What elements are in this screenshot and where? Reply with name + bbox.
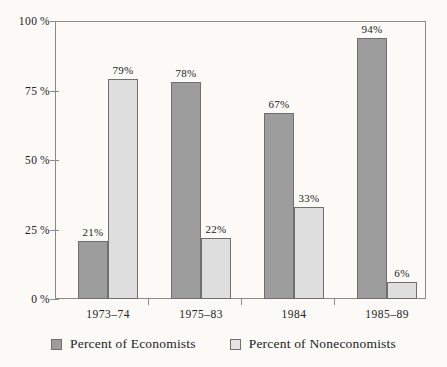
bar-noneconomists-1975-83 xyxy=(201,238,231,299)
bar-value-economists-1984: 67% xyxy=(268,98,289,110)
legend-item-economists: Percent of Economists xyxy=(51,336,196,352)
x-category-label-1985-89: 1985–89 xyxy=(365,308,409,320)
legend-label-noneconomists: Percent of Noneconomists xyxy=(249,336,396,352)
bar-value-noneconomists-1985-89: 6% xyxy=(394,267,409,279)
bar-economists-1975-83 xyxy=(171,82,201,299)
bar-value-noneconomists-1984: 33% xyxy=(298,192,319,204)
bar-value-noneconomists-1975-83: 22% xyxy=(205,223,226,235)
bar-noneconomists-1985-89 xyxy=(387,282,417,299)
x-category-label-1984: 1984 xyxy=(282,308,307,320)
bar-value-economists-1975-83: 78% xyxy=(175,67,196,79)
legend-item-noneconomists: Percent of Noneconomists xyxy=(230,336,396,352)
bar-chart: 100 % 75 % 50 % 25 % 0 % 21% 79% 78% 22%… xyxy=(0,0,447,367)
bar-economists-1984 xyxy=(264,113,294,299)
bar-noneconomists-1984 xyxy=(294,207,324,299)
x-category-label-1975-83: 1975–83 xyxy=(179,308,223,320)
legend-label-economists: Percent of Economists xyxy=(70,336,196,352)
bar-value-economists-1973-74: 21% xyxy=(82,226,103,238)
bar-economists-1985-89 xyxy=(357,38,387,299)
bar-value-noneconomists-1973-74: 79% xyxy=(112,64,133,76)
x-category-label-1973-74: 1973–74 xyxy=(86,308,130,320)
legend-swatch-icon-economists xyxy=(51,339,62,350)
bar-noneconomists-1973-74 xyxy=(108,79,138,299)
chart-legend: Percent of Economists Percent of Nonecon… xyxy=(0,336,447,352)
bar-economists-1973-74 xyxy=(78,241,108,299)
bar-value-economists-1985-89: 94% xyxy=(361,23,382,35)
legend-swatch-icon-noneconomists xyxy=(230,339,241,350)
